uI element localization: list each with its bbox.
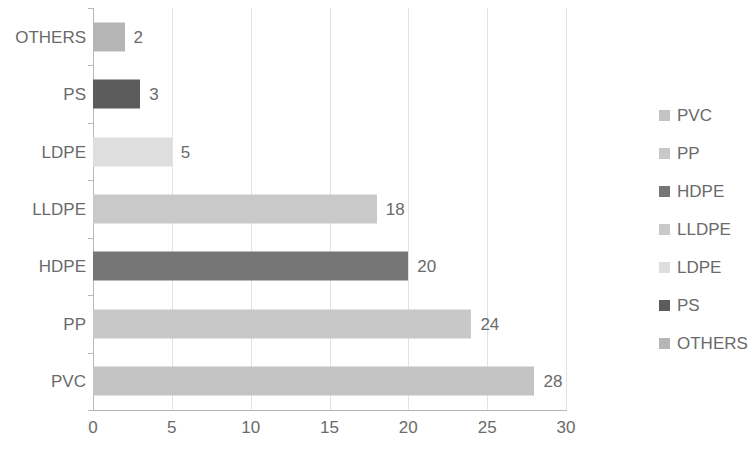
bar-pvc[interactable] bbox=[93, 367, 534, 396]
legend-label: PP bbox=[677, 145, 700, 162]
bar-chart: PVCPPHDPELLDPELDPEPSOTHERS 28242018532 0… bbox=[0, 0, 748, 452]
category-label-lldpe: LLDPE bbox=[32, 200, 86, 217]
legend-swatch-icon bbox=[659, 186, 670, 197]
legend-item-pp[interactable]: PP bbox=[659, 134, 748, 172]
legend-label: LLDPE bbox=[677, 221, 731, 238]
bar-pp[interactable] bbox=[93, 309, 471, 338]
bar-row: 2 bbox=[93, 8, 566, 65]
x-tick-label-30: 30 bbox=[557, 419, 576, 436]
category-label-hdpe: HDPE bbox=[39, 258, 86, 275]
legend-swatch-icon bbox=[659, 338, 670, 349]
bar-value-pvc: 28 bbox=[543, 373, 562, 390]
legend-item-ps[interactable]: PS bbox=[659, 286, 748, 324]
legend-swatch-icon bbox=[659, 262, 670, 273]
x-tick-label-20: 20 bbox=[399, 419, 418, 436]
bar-row: 20 bbox=[93, 238, 566, 295]
bar-value-lldpe: 18 bbox=[386, 200, 405, 217]
x-axis-line bbox=[93, 410, 567, 411]
legend-swatch-icon bbox=[659, 224, 670, 235]
legend: PVCPPHDPELLDPELDPEPSOTHERS bbox=[659, 96, 748, 362]
legend-swatch-icon bbox=[659, 110, 670, 121]
bar-ldpe[interactable] bbox=[93, 137, 172, 166]
x-tick-label-0: 0 bbox=[88, 419, 97, 436]
legend-label: PS bbox=[677, 297, 700, 314]
category-label-ldpe: LDPE bbox=[42, 143, 86, 160]
bar-value-ps: 3 bbox=[149, 86, 158, 103]
legend-swatch-icon bbox=[659, 148, 670, 159]
bar-ps[interactable] bbox=[93, 80, 140, 109]
category-label-ps: PS bbox=[63, 86, 86, 103]
legend-label: PVC bbox=[677, 107, 712, 124]
y-tickmark bbox=[88, 410, 93, 411]
bar-value-ldpe: 5 bbox=[181, 143, 190, 160]
x-tick-label-5: 5 bbox=[167, 419, 176, 436]
legend-item-pvc[interactable]: PVC bbox=[659, 96, 748, 134]
category-label-others: OTHERS bbox=[15, 28, 86, 45]
bar-others[interactable] bbox=[93, 22, 125, 51]
legend-swatch-icon bbox=[659, 300, 670, 311]
category-label-wrap: LLDPE bbox=[0, 180, 86, 237]
category-label-wrap: PVC bbox=[0, 353, 86, 410]
gridline-30 bbox=[566, 8, 567, 410]
bar-hdpe[interactable] bbox=[93, 252, 408, 281]
bar-row: 18 bbox=[93, 180, 566, 237]
legend-item-lldpe[interactable]: LLDPE bbox=[659, 210, 748, 248]
category-label-pp: PP bbox=[63, 315, 86, 332]
x-tick-label-10: 10 bbox=[241, 419, 260, 436]
x-tick-label-15: 15 bbox=[320, 419, 339, 436]
legend-label: LDPE bbox=[677, 259, 721, 276]
bar-lldpe[interactable] bbox=[93, 194, 377, 223]
bar-row: 3 bbox=[93, 65, 566, 122]
bar-value-others: 2 bbox=[134, 28, 143, 45]
bar-row: 28 bbox=[93, 353, 566, 410]
category-label-wrap: PS bbox=[0, 65, 86, 122]
legend-item-hdpe[interactable]: HDPE bbox=[659, 172, 748, 210]
legend-label: HDPE bbox=[677, 183, 724, 200]
category-label-wrap: PP bbox=[0, 295, 86, 352]
category-label-pvc: PVC bbox=[51, 373, 86, 390]
legend-item-others[interactable]: OTHERS bbox=[659, 324, 748, 362]
legend-item-ldpe[interactable]: LDPE bbox=[659, 248, 748, 286]
bar-value-hdpe: 20 bbox=[417, 258, 436, 275]
x-tick-label-25: 25 bbox=[478, 419, 497, 436]
bar-row: 5 bbox=[93, 123, 566, 180]
bar-row: 24 bbox=[93, 295, 566, 352]
category-label-wrap: HDPE bbox=[0, 238, 86, 295]
category-label-wrap: LDPE bbox=[0, 123, 86, 180]
legend-label: OTHERS bbox=[677, 335, 748, 352]
bar-value-pp: 24 bbox=[480, 315, 499, 332]
plot-area: 28242018532 bbox=[93, 8, 566, 410]
category-label-wrap: OTHERS bbox=[0, 8, 86, 65]
